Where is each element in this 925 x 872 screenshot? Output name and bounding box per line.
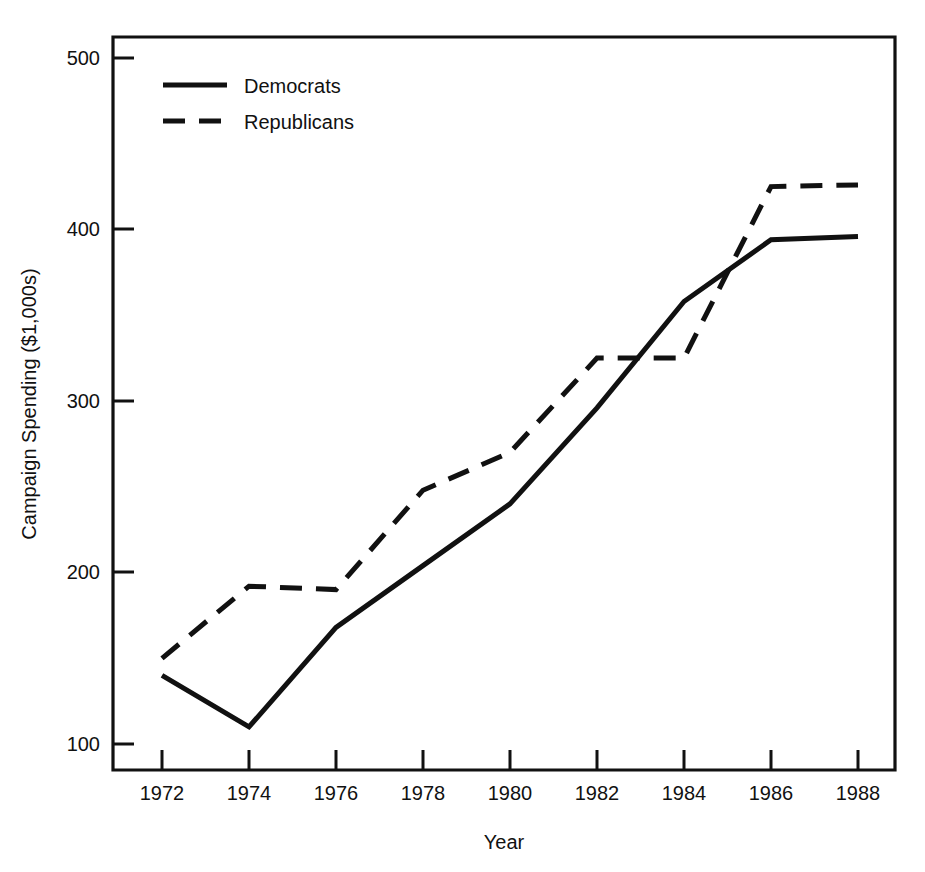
chart-legend: Democrats Republicans [163, 75, 354, 133]
y-tick-label-300: 300 [67, 390, 100, 412]
chart-page: 500 400 300 200 100 1972 1974 1976 1978 … [0, 0, 925, 872]
x-axis-ticks [162, 750, 858, 770]
series-republicans [162, 185, 858, 658]
y-tick-label-500: 500 [67, 47, 100, 69]
legend-label-republicans: Republicans [244, 111, 354, 133]
plot-frame [113, 37, 895, 770]
line-chart: 500 400 300 200 100 1972 1974 1976 1978 … [0, 0, 925, 872]
legend-label-democrats: Democrats [244, 75, 341, 97]
series-republicans-line [162, 185, 858, 658]
y-axis-title: Campaign Spending ($1,000s) [18, 268, 40, 539]
x-tick-label-1988: 1988 [836, 782, 881, 804]
x-axis-title: Year [484, 831, 525, 853]
x-tick-label-1974: 1974 [227, 782, 272, 804]
x-tick-label-1972: 1972 [140, 782, 185, 804]
x-tick-label-1982: 1982 [575, 782, 620, 804]
x-tick-label-1976: 1976 [314, 782, 359, 804]
x-tick-label-1986: 1986 [749, 782, 794, 804]
y-tick-label-400: 400 [67, 218, 100, 240]
y-tick-label-200: 200 [67, 561, 100, 583]
series-democrats [162, 236, 858, 727]
y-axis-ticks [113, 58, 134, 744]
x-axis-tick-labels: 1972 1974 1976 1978 1980 1982 1984 1986 … [140, 782, 881, 804]
x-tick-label-1984: 1984 [662, 782, 707, 804]
y-tick-label-100: 100 [67, 733, 100, 755]
x-tick-label-1978: 1978 [401, 782, 446, 804]
x-tick-label-1980: 1980 [488, 782, 533, 804]
series-democrats-line [162, 236, 858, 727]
y-axis-tick-labels: 500 400 300 200 100 [67, 47, 100, 755]
